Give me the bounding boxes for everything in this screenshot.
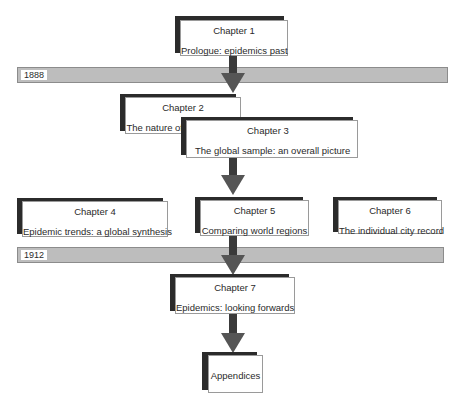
chapter-subtitle: Epidemics: looking forwards bbox=[176, 301, 294, 314]
appendices-label: Appendices bbox=[209, 369, 262, 382]
year-label: 1888 bbox=[21, 70, 47, 80]
chapter-subtitle: The individual city record bbox=[339, 224, 441, 237]
chapter-subtitle: The global sample: an overall picture bbox=[187, 144, 357, 157]
chapter-title: Chapter 2 bbox=[126, 101, 240, 114]
chapter-title: Chapter 4 bbox=[23, 205, 167, 218]
chapter-subtitle: Prologue: epidemics past bbox=[181, 44, 287, 57]
arrow-down-icon bbox=[220, 235, 246, 277]
chapter-title: Chapter 1 bbox=[181, 24, 287, 37]
chapter-title: Chapter 5 bbox=[201, 204, 308, 217]
chapter-title: Chapter 6 bbox=[339, 204, 441, 217]
chapter-subtitle: Epidemic trends: a global synthesis bbox=[23, 225, 167, 238]
chapter-3-box: Chapter 3 The global sample: an overall … bbox=[186, 120, 358, 158]
chapter-title: Chapter 3 bbox=[187, 124, 357, 137]
chapter-5-box: Chapter 5 Comparing world regions bbox=[200, 200, 309, 236]
arrow-down-icon bbox=[220, 157, 246, 197]
chapter-subtitle: Comparing world regions bbox=[201, 224, 308, 237]
chapter-1-box: Chapter 1 Prologue: epidemics past bbox=[180, 20, 288, 56]
arrow-down-icon bbox=[220, 313, 246, 355]
year-label: 1912 bbox=[21, 250, 47, 260]
arrow-down-icon bbox=[220, 55, 246, 95]
chapter-7-box: Chapter 7 Epidemics: looking forwards bbox=[175, 277, 295, 314]
appendices-box: Appendices bbox=[208, 355, 263, 393]
chapter-4-box: Chapter 4 Epidemic trends: a global synt… bbox=[22, 201, 168, 237]
chapter-title: Chapter 7 bbox=[176, 281, 294, 294]
chapter-6-box: Chapter 6 The individual city record bbox=[338, 200, 442, 234]
